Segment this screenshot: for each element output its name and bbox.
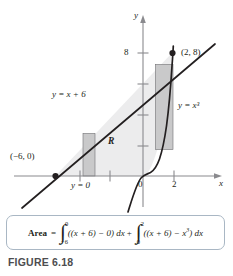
- y-equals-zero-label: y = 0: [71, 181, 90, 190]
- integral-2-body-pre: ((x + 6) − x: [144, 228, 187, 238]
- figure-caption: FIGURE 6.18: [8, 256, 73, 268]
- integral-1-lower-limit: −6: [61, 238, 68, 245]
- figure-container: y x 8 0 2 (2, 8) (−6, 0) y = x + 6 y = x…: [0, 0, 233, 276]
- equation-content: Area = 0 ∫ −6 ((x + 6) − 0) dx + 2 ∫ 0 (…: [7, 216, 224, 249]
- equals-sign: =: [51, 228, 56, 238]
- region-shading: [55, 53, 172, 176]
- point-label-2-8: (2, 8): [181, 48, 201, 57]
- y-axis-arrowhead: [140, 15, 146, 23]
- equation-lhs: Area: [28, 228, 47, 238]
- region-label-R: R: [108, 137, 114, 147]
- point-2-8-marker: [169, 50, 175, 56]
- integral-1-body: ((x + 6) − 0) dx: [68, 228, 125, 238]
- y-tick-label-8: 8: [124, 48, 129, 57]
- equation-box: Area = 0 ∫ −6 ((x + 6) − 0) dx + 2 ∫ 0 (…: [6, 215, 225, 250]
- integral-2-body-post: ) dx: [189, 228, 203, 238]
- y-axis-label: y: [134, 11, 138, 20]
- point-label-neg6-0: (−6, 0): [10, 152, 35, 161]
- integral-1: 0 ∫ −6: [60, 222, 66, 244]
- origin-label: 0: [138, 180, 143, 189]
- x-axis-label: x: [219, 179, 223, 188]
- point-neg6-0-marker: [52, 173, 58, 179]
- integral-2-body: ((x + 6) − x3) dx: [144, 228, 203, 238]
- cubic-equation-label: y = x³: [178, 101, 199, 110]
- line-curve: [22, 44, 215, 208]
- integral-2: 2 ∫ 0: [136, 222, 142, 244]
- x-tick-label-2: 2: [172, 180, 177, 189]
- line-equation-label: y = x + 6: [52, 90, 86, 99]
- area-equation: Area = 0 ∫ −6 ((x + 6) − 0) dx + 2 ∫ 0 (…: [28, 222, 203, 244]
- plus-sign: +: [127, 228, 132, 238]
- integral-2-lower-limit: 0: [137, 238, 140, 245]
